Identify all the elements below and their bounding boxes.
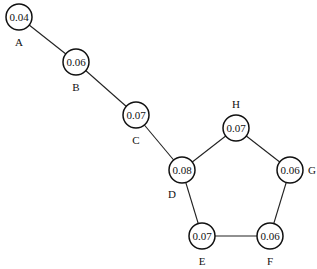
node-a: 0.04A: [6, 4, 32, 48]
node-f: 0.06F: [257, 223, 283, 267]
node-e: 0.07E: [189, 223, 215, 267]
node-value: 0.04: [9, 11, 29, 23]
node-label: F: [267, 255, 273, 267]
node-value: 0.07: [126, 109, 146, 121]
node-label: A: [15, 36, 23, 48]
node-h: 0.07H: [223, 98, 249, 141]
node-c: 0.07C: [123, 102, 149, 146]
node-b: 0.06B: [63, 49, 89, 93]
node-label: C: [132, 134, 139, 146]
node-label: D: [168, 188, 176, 200]
node-g: 0.06G: [277, 157, 316, 183]
node-d: 0.08D: [168, 157, 195, 200]
node-label: H: [232, 98, 240, 110]
node-label: E: [199, 255, 206, 267]
node-value: 0.08: [172, 164, 192, 176]
node-value: 0.07: [226, 122, 246, 134]
node-value: 0.06: [260, 230, 280, 242]
node-value: 0.06: [280, 164, 300, 176]
node-value: 0.06: [66, 56, 86, 68]
graph-diagram: 0.04A0.06B0.07C0.08D0.07E0.06F0.06G0.07H: [0, 0, 317, 269]
node-value: 0.07: [192, 230, 212, 242]
node-label: B: [72, 81, 79, 93]
node-label: G: [308, 164, 316, 176]
